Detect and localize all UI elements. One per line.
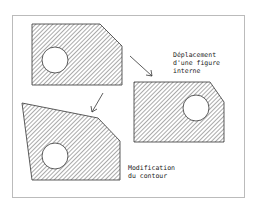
arrow-move-icon xyxy=(130,56,152,76)
modified-contour-part xyxy=(22,103,120,180)
arrow-modify-icon xyxy=(91,93,103,112)
label-line: Déplacement xyxy=(173,51,220,59)
hole xyxy=(42,47,68,73)
hole xyxy=(183,95,209,121)
label-move-internal: Déplacement d'une figure interne xyxy=(173,51,220,75)
hole xyxy=(42,143,68,169)
label-line: Modification xyxy=(128,164,175,172)
moved-hole-part xyxy=(134,82,224,142)
label-line: du contour xyxy=(128,172,175,180)
diagram-canvas xyxy=(0,0,254,212)
label-line: d'une figure xyxy=(173,59,220,67)
label-line: interne xyxy=(173,67,220,75)
original-part xyxy=(32,24,122,85)
label-modify-contour: Modification du contour xyxy=(128,164,175,180)
